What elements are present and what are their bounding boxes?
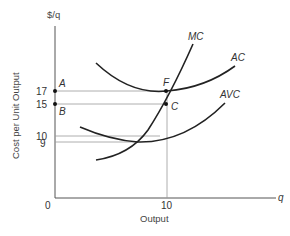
ac-label: AC bbox=[230, 52, 246, 63]
point-f-dot bbox=[164, 89, 168, 93]
point-b-dot bbox=[53, 102, 57, 106]
point-c-dot bbox=[164, 102, 168, 106]
cost-curves-chart: $/q q 17 15 10 9 0 10 A B F C MC AC AVC … bbox=[0, 0, 290, 236]
mc-label: MC bbox=[188, 31, 204, 42]
y-tick-15: 15 bbox=[36, 99, 48, 110]
point-a-label: A bbox=[58, 78, 66, 89]
y-axis-title: Cost per Unit Output bbox=[10, 72, 21, 159]
x-unit-label: q bbox=[278, 192, 284, 203]
y-unit-label: $/q bbox=[47, 9, 60, 20]
point-f-label: F bbox=[163, 77, 170, 88]
y-tick-9: 9 bbox=[40, 138, 46, 149]
point-c-label: C bbox=[171, 101, 179, 112]
y-tick-17: 17 bbox=[36, 86, 48, 97]
avc-label: AVC bbox=[219, 89, 241, 100]
point-a-dot bbox=[53, 89, 57, 93]
point-b-label: B bbox=[59, 106, 66, 117]
origin-label: 0 bbox=[45, 200, 51, 211]
x-axis-title: Output bbox=[140, 213, 169, 224]
x-tick-10: 10 bbox=[161, 200, 173, 211]
